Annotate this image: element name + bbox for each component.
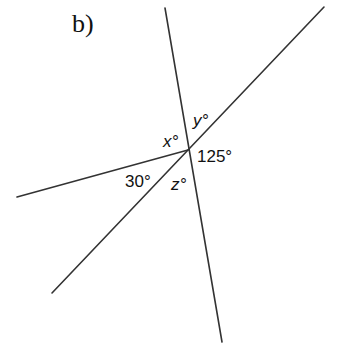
- left-ray: [17, 150, 188, 197]
- angle-125-label: 125°: [197, 147, 232, 166]
- part-label: b): [72, 9, 94, 38]
- angle-y-label: y°: [192, 111, 209, 130]
- angle-30-label: 30°: [125, 172, 151, 191]
- angle-x-label: x°: [162, 132, 179, 151]
- angle-z-label: z°: [170, 175, 187, 194]
- angle-diagram: b) x° y° 125° z° 30°: [0, 0, 338, 355]
